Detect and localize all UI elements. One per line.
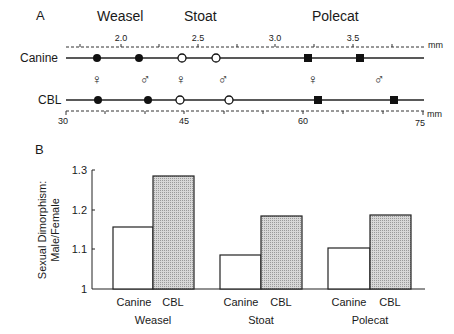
y-tick-1-3: 1.3	[72, 164, 87, 176]
panel-a-label: A	[36, 8, 45, 23]
bar-label-canine: Canine	[117, 296, 152, 308]
male-symbol: ♂	[374, 71, 385, 87]
bar-stoat-canine	[220, 255, 261, 289]
cbl-tick-30: 30	[58, 116, 68, 126]
female-symbol: ♀	[308, 71, 319, 87]
cbl-axis	[66, 111, 424, 115]
canine-stoat-female-marker	[178, 54, 186, 62]
canine-tick-3-0: 3.0	[269, 33, 282, 43]
group-label-stoat: Stoat	[248, 314, 274, 326]
y-tick-1-1: 1.1	[72, 243, 87, 255]
y-axis-label-line2: Male/Female	[49, 198, 61, 262]
species-header-stoat: Stoat	[184, 8, 217, 24]
cbl-tick-75: 75	[415, 118, 425, 128]
canine-tick-2-5: 2.5	[192, 33, 205, 43]
species-header-weasel: Weasel	[97, 8, 143, 24]
bar-polecat-cbl	[370, 215, 411, 289]
canine-unit: mm	[428, 40, 443, 50]
group-label-weasel: Weasel	[135, 314, 171, 326]
canine-weasel-male-marker	[135, 54, 143, 62]
canine-axis	[66, 44, 425, 47]
panel-b-label: B	[35, 142, 44, 157]
cbl-tick-45: 45	[179, 116, 189, 126]
cbl-stoat-male-marker	[225, 96, 233, 104]
cbl-stoat-female-marker	[176, 96, 184, 104]
female-symbol: ♀	[176, 71, 187, 87]
canine-weasel-female-marker	[93, 54, 101, 62]
cbl-polecat-female-marker	[314, 96, 322, 104]
figure: A Weasel Stoat Polecat 2.0 2.5 3.0 3.5 m…	[0, 0, 454, 334]
y-tick-1-2: 1.2	[72, 204, 87, 216]
bar-label-cbl: CBL	[162, 296, 183, 308]
panel-a: A Weasel Stoat Polecat 2.0 2.5 3.0 3.5 m…	[20, 8, 443, 128]
male-symbol: ♂	[218, 71, 229, 87]
canine-polecat-male-marker	[356, 54, 364, 62]
row-label-canine: Canine	[20, 51, 58, 65]
canine-tick-3-5: 3.5	[347, 33, 360, 43]
cbl-weasel-female-marker	[94, 96, 102, 104]
bar-polecat-canine	[328, 248, 370, 289]
y-tick-1: 1	[81, 283, 87, 295]
group-label-polecat: Polecat	[352, 314, 389, 326]
species-header-polecat: Polecat	[312, 8, 359, 24]
cbl-weasel-male-marker	[144, 96, 152, 104]
panel-b: B Sexual Dimorphism: Male/Female 1 1.1 1…	[35, 142, 425, 326]
bar-weasel-canine	[113, 227, 153, 289]
cbl-unit: mm	[427, 109, 442, 119]
bar-label-cbl: CBL	[379, 296, 400, 308]
bar-label-canine: Canine	[332, 296, 367, 308]
male-symbol: ♂	[140, 71, 151, 87]
canine-polecat-female-marker	[304, 54, 312, 62]
cbl-tick-60: 60	[298, 116, 308, 126]
bar-label-cbl: CBL	[270, 296, 291, 308]
y-axis-label-line1: Sexual Dimorphism:	[36, 181, 48, 279]
bar-stoat-cbl	[261, 216, 302, 289]
canine-tick-2-0: 2.0	[115, 33, 128, 43]
cbl-polecat-male-marker	[390, 96, 398, 104]
bar-label-canine: Canine	[224, 296, 259, 308]
bar-weasel-cbl	[153, 176, 194, 289]
row-label-cbl: CBL	[38, 93, 62, 107]
canine-stoat-male-marker	[212, 54, 220, 62]
female-symbol: ♀	[92, 71, 103, 87]
